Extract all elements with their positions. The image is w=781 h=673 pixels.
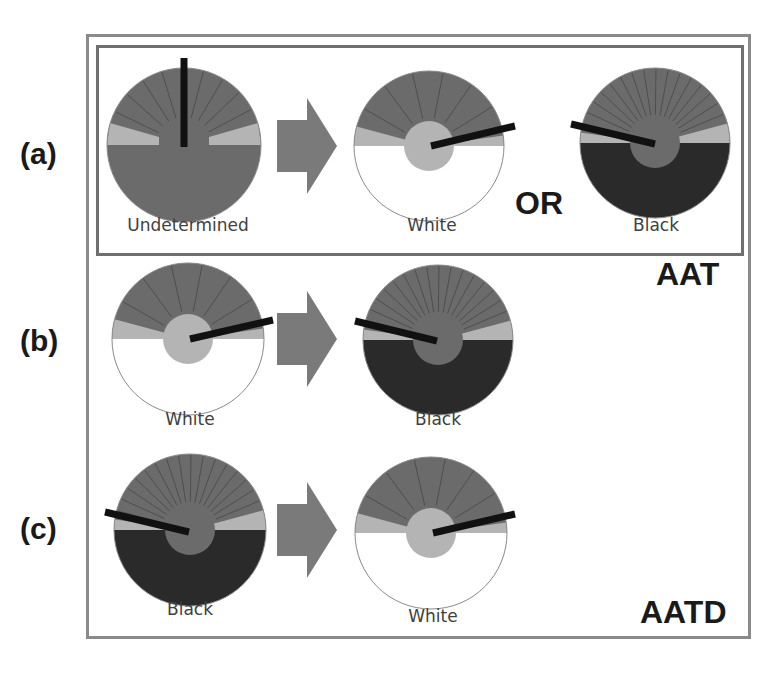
mode-tag-aatd: AATD [640,594,727,631]
disc-c-white [355,457,515,609]
disc-caption: White [407,215,456,235]
disc-caption: White [165,409,214,429]
disc-caption: Black [167,599,213,619]
arrow-c-right-arrow-icon [277,482,337,578]
row-label-b: (b) [20,324,58,358]
disc-caption: Black [415,409,461,429]
mode-tag-aat: AAT [656,256,719,293]
disc-a-undetermined [107,58,261,222]
disc-artwork [0,0,781,673]
disc-hub [404,121,454,171]
spoke-line [190,455,191,502]
spoke-line [438,266,439,312]
disc-b-black [355,265,513,415]
disc-a-white [354,71,515,221]
disc-caption: Undetermined [127,215,249,235]
row-label-a: (a) [20,137,57,171]
row-label-c: (c) [20,512,57,546]
spoke-line [655,69,656,115]
arrow-b-right-arrow-icon [277,291,337,387]
disc-caption: White [408,606,457,626]
disc-lower-half [107,145,261,222]
or-label: OR [515,185,563,222]
disc-caption: Black [633,215,679,235]
diagram-canvas: (a) (b) (c) OR AAT AATD UndeterminedWhit… [0,0,781,673]
disc-b-white [112,263,273,415]
arrow-a-right-arrow-icon [277,98,337,194]
disc-a-black [571,68,730,218]
disc-c-black [105,454,266,606]
